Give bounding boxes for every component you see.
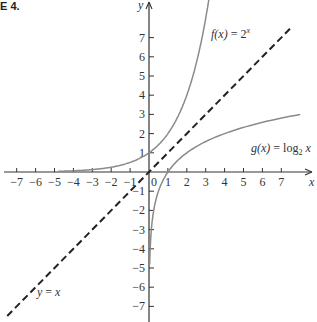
y-tick-label: 4 xyxy=(139,88,145,102)
f-lhs: f(x) xyxy=(211,27,228,41)
curves xyxy=(7,0,300,316)
x-tick-label: −3 xyxy=(86,175,99,189)
x-axis-label: x xyxy=(308,175,315,189)
x-tick-label: −4 xyxy=(67,175,80,189)
y-axis-label: y xyxy=(137,0,144,12)
g-lhs: g(x) xyxy=(251,141,270,155)
x-tick-label: −7 xyxy=(10,175,23,189)
id-eq: = xyxy=(42,285,55,299)
y-tick-label: 2 xyxy=(139,127,145,141)
x-tick-label: −2 xyxy=(105,175,118,189)
f-exponent: x xyxy=(245,26,250,35)
f-eq: = 2 xyxy=(228,27,247,41)
y-tick-label: 7 xyxy=(139,31,145,45)
function-graph: −7−6−5−4−3−2−11234567−7−6−5−4−3−2−112345… xyxy=(0,0,317,322)
y-tick-label: −2 xyxy=(132,203,145,217)
f-annotation: f(x) = 2x xyxy=(211,26,250,41)
y-tick-label: −7 xyxy=(132,299,145,313)
identity-line xyxy=(7,26,292,316)
id-rhs: x xyxy=(54,285,61,299)
x-tick-label: 2 xyxy=(184,175,190,189)
x-tick-label: 1 xyxy=(165,175,171,189)
y-tick-label: −5 xyxy=(132,261,145,275)
x-tick-label: −6 xyxy=(29,175,42,189)
x-tick-label: 6 xyxy=(259,175,265,189)
x-tick-label: 4 xyxy=(222,175,228,189)
y-tick-label: −6 xyxy=(132,280,145,294)
g-x: x xyxy=(302,141,311,155)
origin-label: 0 xyxy=(151,175,157,189)
y-tick-label: 3 xyxy=(139,107,145,121)
x-tick-label: 7 xyxy=(278,175,284,189)
y-tick-label: −3 xyxy=(132,223,145,237)
g-annotation: g(x) = log2 x xyxy=(251,141,311,157)
logarithm-curve xyxy=(150,114,301,264)
y-tick-label: 5 xyxy=(139,69,145,83)
y-tick-label: 6 xyxy=(139,50,145,64)
y-tick-label: −4 xyxy=(132,242,145,256)
exponential-curve xyxy=(58,0,211,171)
x-tick-label: −5 xyxy=(48,175,61,189)
x-tick-label: 3 xyxy=(203,175,209,189)
g-eq: = log xyxy=(270,141,298,155)
x-tick-label: 5 xyxy=(241,175,247,189)
identity-annotation: y = x xyxy=(36,285,61,299)
